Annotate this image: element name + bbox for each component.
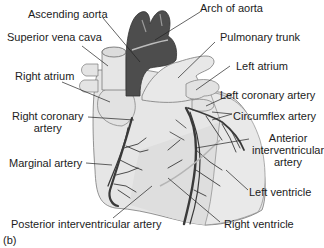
label-anterior-interventricular-artery: Anterior interventricular artery: [252, 132, 324, 168]
label-superior-vena-cava: Superior vena cava: [7, 31, 102, 43]
panel-label: (b): [3, 234, 16, 246]
label-arch-of-aorta: Arch of aorta: [200, 2, 263, 14]
label-right-coronary-line1: Right coronary: [12, 110, 84, 122]
label-anterior-line3: artery: [252, 156, 324, 168]
label-pulmonary-trunk: Pulmonary trunk: [220, 31, 300, 43]
label-right-ventricle: Right ventricle: [224, 218, 294, 230]
label-anterior-line1: Anterior: [252, 132, 324, 144]
label-ascending-aorta: Ascending aorta: [28, 8, 108, 20]
label-right-coronary-artery: Right coronary artery: [12, 110, 84, 134]
label-left-atrium: Left atrium: [236, 60, 288, 72]
label-right-atrium: Right atrium: [15, 70, 74, 82]
label-anterior-line2: interventricular: [252, 144, 324, 156]
label-left-ventricle: Left ventricle: [249, 186, 311, 198]
label-posterior-interventricular-artery: Posterior interventricular artery: [11, 218, 161, 230]
right-atrium-lobes: [80, 64, 99, 92]
label-right-coronary-line2: artery: [12, 122, 84, 134]
label-left-coronary-artery: Left coronary artery: [220, 89, 315, 101]
label-circumflex-artery: Circumflex artery: [233, 110, 316, 122]
label-marginal-artery: Marginal artery: [9, 157, 82, 169]
svc-opening: [102, 47, 126, 57]
